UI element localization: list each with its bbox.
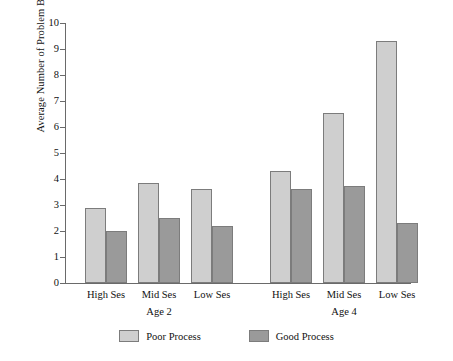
y-tick-label: 5 — [54, 148, 59, 159]
x-category-label: Low Ses — [194, 289, 230, 300]
legend-swatch-good-process — [249, 330, 269, 342]
plot-area: 012345678910 High SesMid SesLow SesHigh … — [66, 23, 411, 283]
x-category-label: Mid Ses — [142, 289, 177, 300]
legend-label-poor-process: Poor Process — [146, 331, 201, 342]
y-tick-mark — [60, 153, 65, 154]
x-category-label: High Ses — [87, 289, 125, 300]
x-category-label: Mid Ses — [327, 289, 362, 300]
bar-good-process — [159, 218, 180, 283]
legend-item-poor-process: Poor Process — [119, 330, 201, 342]
y-tick-label: 2 — [54, 226, 59, 237]
x-category-label: High Ses — [272, 289, 310, 300]
y-tick-label: 0 — [54, 278, 59, 289]
bar-chart: Average Number of Problem Behaviors 0123… — [0, 0, 453, 361]
y-tick-mark — [60, 101, 65, 102]
y-tick-mark — [60, 257, 65, 258]
bar-good-process — [106, 231, 127, 283]
bar-poor-process — [270, 171, 291, 283]
y-tick-label: 8 — [54, 70, 59, 81]
bar-good-process — [291, 189, 312, 283]
legend-item-good-process: Good Process — [249, 330, 334, 342]
x-axis-line — [65, 283, 411, 284]
y-tick-label: 1 — [54, 252, 59, 263]
legend-label-good-process: Good Process — [276, 331, 334, 342]
y-tick-label: 7 — [54, 96, 59, 107]
y-tick-label: 4 — [54, 174, 59, 185]
y-axis-title: Average Number of Problem Behaviors — [35, 0, 46, 170]
y-tick-mark — [60, 231, 65, 232]
bar-poor-process — [376, 41, 397, 283]
x-category-label: Low Ses — [379, 289, 415, 300]
bar-good-process — [212, 226, 233, 283]
bar-poor-process — [323, 113, 344, 283]
y-tick-label: 9 — [54, 44, 59, 55]
y-tick-label: 3 — [54, 200, 59, 211]
y-axis-line — [65, 23, 66, 284]
y-tick-mark — [60, 23, 65, 24]
y-tick-label: 6 — [54, 122, 59, 133]
y-tick-mark — [60, 205, 65, 206]
x-group-label: Age 2 — [146, 306, 171, 317]
y-tick-mark — [60, 283, 65, 284]
x-group-label: Age 4 — [331, 306, 356, 317]
bar-poor-process — [85, 208, 106, 283]
bar-poor-process — [191, 189, 212, 283]
y-tick-mark — [60, 179, 65, 180]
bar-good-process — [344, 186, 365, 284]
y-tick-mark — [60, 127, 65, 128]
y-tick-label: 10 — [49, 18, 60, 29]
bar-poor-process — [138, 183, 159, 283]
y-tick-mark — [60, 49, 65, 50]
chart-legend: Poor Process Good Process — [0, 330, 453, 342]
legend-swatch-poor-process — [119, 330, 139, 342]
y-tick-mark — [60, 75, 65, 76]
bar-good-process — [397, 223, 418, 283]
